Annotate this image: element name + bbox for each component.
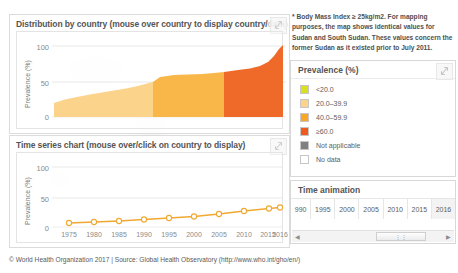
distribution-title-text: Distribution by country (mouse over coun… bbox=[16, 19, 268, 29]
legend-swatch-not-applicable bbox=[300, 141, 309, 150]
legend-label: 40.0–59.9 bbox=[316, 114, 347, 121]
legend-swatch-no-data bbox=[300, 155, 309, 164]
scrollbar-thumb[interactable]: ⋮⋮ bbox=[376, 232, 426, 241]
timeseries-chart[interactable]: Prevalence (%) 100 50 0 bbox=[16, 152, 283, 243]
year-cell-2005[interactable]: 2005 bbox=[359, 199, 383, 219]
legend-item[interactable]: Not applicable bbox=[300, 138, 455, 152]
legend-item[interactable]: 40.0–59.9 bbox=[300, 110, 455, 124]
timeseries-xtick-2005: 2005 bbox=[209, 231, 229, 238]
timeseries-xtick-1985: 1985 bbox=[109, 231, 129, 238]
timeseries-panel-title: Time series chart (mouse over/click on c… bbox=[10, 136, 289, 150]
triangle-left-icon[interactable]: ◀ bbox=[292, 231, 303, 242]
timeseries-xtick-1980: 1980 bbox=[84, 231, 104, 238]
legend-label: ≥60.0 bbox=[316, 128, 333, 135]
timeseries-xtick-2000: 2000 bbox=[184, 231, 204, 238]
legend-label: No data bbox=[316, 156, 341, 163]
legend-item[interactable]: ≥60.0 bbox=[300, 124, 455, 138]
year-cell-2016[interactable]: 2016 bbox=[432, 199, 455, 219]
timeseries-panel: Time series chart (mouse over/click on c… bbox=[9, 135, 290, 248]
legend-label: 20.0–39.9 bbox=[316, 100, 347, 107]
legend-swatch-lt20 bbox=[300, 85, 309, 94]
time-animation-panel: Time animation 990 1995 2000 2005 2010 2… bbox=[290, 180, 456, 244]
distribution-panel-title: Distribution by country (mouse over coun… bbox=[10, 15, 289, 29]
legend-title: Prevalence (%) bbox=[291, 61, 455, 79]
distribution-ytick-50: 50 bbox=[27, 79, 49, 88]
legend-swatch-gte60 bbox=[300, 127, 309, 136]
year-strip: 990 1995 2000 2005 2010 2015 2016 bbox=[291, 198, 455, 219]
legend-item[interactable]: No data bbox=[300, 152, 455, 166]
timeseries-xtick-1995: 1995 bbox=[159, 231, 179, 238]
year-cell-2010[interactable]: 2010 bbox=[384, 199, 408, 219]
legend-swatch-40-59 bbox=[300, 113, 309, 122]
timeseries-ytick-50: 50 bbox=[27, 195, 49, 204]
timeseries-plot: Prevalence (%) 100 50 0 bbox=[17, 153, 282, 242]
year-cell-1995[interactable]: 1995 bbox=[311, 199, 335, 219]
year-cell-2015[interactable]: 2015 bbox=[408, 199, 432, 219]
year-cell-1990[interactable]: 990 bbox=[291, 199, 311, 219]
legend-label: Not applicable bbox=[316, 142, 360, 149]
legend-items: <20.0 20.0–39.9 40.0–59.9 ≥60.0 Not appl… bbox=[291, 79, 455, 166]
distribution-chart[interactable]: Prevalence (%) 100 50 0 bbox=[16, 31, 283, 129]
legend-panel: Prevalence (%) <20.0 20.0–39.9 40.0–59.9… bbox=[290, 60, 456, 177]
footnote-text: * Body Mass Index ≥ 25kg/m2. For mapping… bbox=[292, 12, 455, 54]
distribution-ytick-100: 100 bbox=[27, 43, 49, 52]
timeseries-ytick-0: 0 bbox=[27, 224, 49, 233]
timeseries-xtick-1975: 1975 bbox=[59, 231, 79, 238]
time-animation-title: Time animation bbox=[291, 181, 455, 198]
distribution-area-series bbox=[52, 32, 286, 128]
timeseries-xtick-1990: 1990 bbox=[134, 231, 154, 238]
distribution-plot: Prevalence (%) 100 50 0 bbox=[17, 32, 282, 128]
footer-credit: © World Health Organization 2017 | Sourc… bbox=[9, 256, 300, 263]
year-cell-2000[interactable]: 2000 bbox=[335, 199, 359, 219]
legend-label: <20.0 bbox=[316, 86, 334, 93]
legend-swatch-20-39 bbox=[300, 99, 309, 108]
scrollbar-track[interactable]: ⋮⋮ bbox=[303, 231, 443, 242]
timeseries-xtick-2010: 2010 bbox=[234, 231, 254, 238]
legend-item[interactable]: <20.0 bbox=[300, 82, 455, 96]
legend-item[interactable]: 20.0–39.9 bbox=[300, 96, 455, 110]
triangle-right-icon[interactable]: ▶ bbox=[443, 231, 454, 242]
horizontal-scrollbar[interactable]: ◀ ⋮⋮ ▶ bbox=[292, 230, 454, 242]
timeseries-ytick-100: 100 bbox=[27, 164, 49, 173]
distribution-ytick-0: 0 bbox=[27, 113, 49, 122]
distribution-panel: Distribution by country (mouse over coun… bbox=[9, 14, 290, 134]
grip-icon: ⋮⋮ bbox=[395, 233, 407, 240]
timeseries-line-series bbox=[52, 153, 286, 233]
expand-icon[interactable] bbox=[436, 63, 453, 80]
timeseries-xtick-2016: 2016 bbox=[270, 231, 290, 238]
